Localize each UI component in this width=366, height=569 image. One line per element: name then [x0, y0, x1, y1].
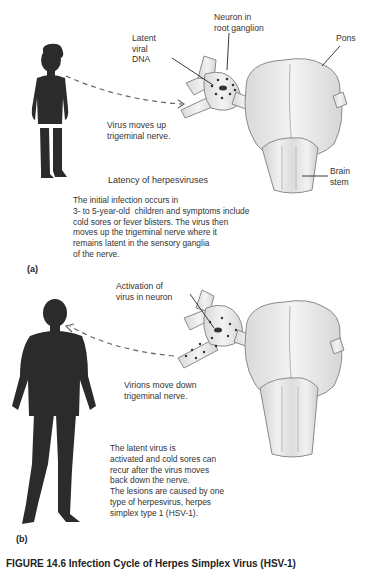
pons-brainstem-b: [245, 301, 344, 457]
dashed-arrow-up: [66, 76, 182, 104]
panel-a-description: The initial infection occurs in 3- to 5-…: [73, 195, 249, 260]
panel-b-description: The latent virus is activated and cold s…: [110, 443, 224, 519]
label-brain-stem: Brain stem: [330, 166, 350, 187]
figure-caption: FIGURE 14.6 Infection Cycle of Herpes Si…: [6, 558, 296, 569]
label-latent-viral-dna: Latent viral DNA: [132, 33, 156, 65]
panel-b-label: (b): [16, 534, 28, 544]
label-neuron-root-ganglion: Neuron in root ganglion: [214, 12, 264, 33]
panel-a-label: (a): [27, 264, 38, 274]
arrow-label-up: Virus moves up trigeminal nerve.: [107, 120, 171, 141]
child-silhouette: [32, 44, 68, 178]
label-activation-of-virus: Activation of virus in neuron: [116, 281, 172, 302]
label-pons: Pons: [336, 33, 356, 44]
panel-a-title: Latency of herpesviruses: [108, 175, 208, 185]
arrow-label-down: Virions move down trigeminal nerve.: [124, 380, 196, 401]
